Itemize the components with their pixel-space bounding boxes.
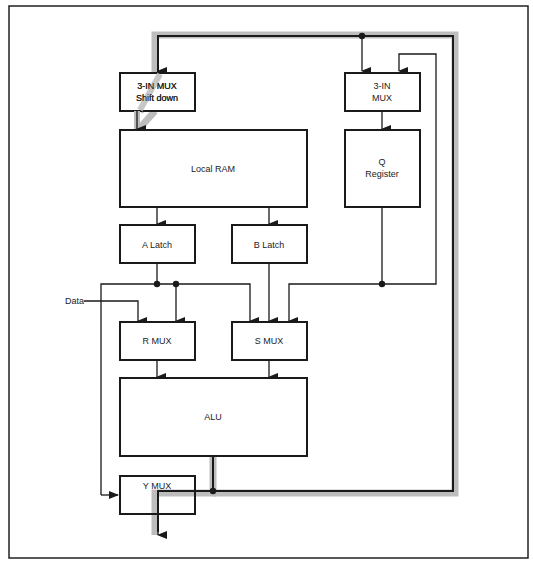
r-mux-block: R MUX: [120, 322, 195, 360]
r-mux-label: R MUX: [143, 336, 172, 346]
junction-dot: [154, 281, 160, 287]
block-diagram: 3-IN MUX Shift down 3-IN MUX Shift down …: [0, 0, 533, 567]
q-register-label-1: Q: [378, 157, 385, 167]
data-input-wire: [84, 301, 138, 321]
junction-dot: [210, 488, 216, 494]
q-mux-label-1: 3-IN: [373, 81, 390, 91]
data-input-label: Data: [65, 296, 84, 306]
q-register-block: Q Register: [345, 130, 420, 207]
b-latch-block: B Latch: [232, 225, 307, 263]
b-latch-label: B Latch: [254, 240, 285, 250]
shift-mux-label-2-overlay: Shift down: [136, 93, 178, 103]
alu-block: ALU: [120, 378, 307, 456]
a-latch-label: A Latch: [142, 240, 172, 250]
alu-label: ALU: [204, 412, 222, 422]
s-mux-block: S MUX: [232, 322, 307, 360]
s-mux-label: S MUX: [255, 336, 284, 346]
y-mux-label: Y MUX: [143, 481, 171, 491]
local-ram-block: Local RAM: [120, 130, 307, 207]
q-mux-block: 3-IN MUX: [345, 73, 420, 111]
q-to-s-mux-wire: [289, 284, 382, 321]
shift-mux-label-1-overlay: 3-IN MUX: [137, 81, 177, 91]
q-mux-label-2: MUX: [372, 93, 392, 103]
q-register-label-2: Register: [365, 169, 399, 179]
local-ram-label: Local RAM: [191, 164, 235, 174]
a-latch-block: A Latch: [120, 225, 195, 263]
